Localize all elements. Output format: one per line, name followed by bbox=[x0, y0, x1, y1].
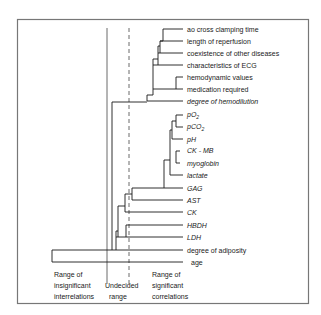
range-undecided-line2: range bbox=[109, 293, 127, 301]
leaf-label: length of reperfusion bbox=[187, 38, 251, 46]
leaf-label: lactate bbox=[187, 172, 208, 179]
range-insignificant-line1: Range of bbox=[54, 271, 82, 279]
range-undecided-line1: Undecided bbox=[105, 282, 139, 289]
leaf-label: degree of adiposity bbox=[187, 247, 247, 255]
range-insignificant-line2: insignificant bbox=[54, 282, 91, 290]
leaf-label: coexistence of other diseases bbox=[187, 50, 280, 57]
range-significant-line3: correlations bbox=[152, 293, 189, 300]
leaf-label: ao cross clamping time bbox=[187, 26, 259, 34]
leaf-label: CK bbox=[187, 209, 197, 216]
lab-cluster-branches bbox=[52, 115, 183, 262]
leaf-label: HBDH bbox=[187, 222, 208, 229]
range-significant-line1: Range of bbox=[152, 271, 180, 279]
leaf-labels: ao cross clamping time length of reperfu… bbox=[186, 26, 280, 267]
range-significant-line2: significant bbox=[152, 282, 183, 290]
leaf-label: degree of hemodilution bbox=[187, 98, 258, 106]
leaf-label: age bbox=[191, 259, 203, 267]
range-labels: Range of insignificant interrelations Un… bbox=[54, 271, 189, 301]
leaf-label: characteristics of ECG bbox=[187, 62, 257, 69]
leaf-label: medication required bbox=[187, 86, 249, 94]
leaf-label: hemodynamic values bbox=[187, 74, 253, 82]
dendrogram-figure: ao cross clamping time length of reperfu… bbox=[0, 0, 321, 315]
range-insignificant-line3: interrelations bbox=[54, 293, 95, 300]
dendrogram-svg: ao cross clamping time length of reperfu… bbox=[0, 0, 321, 315]
leaf-label-pco2: pCO2 bbox=[186, 123, 204, 132]
leaf-label: CK - MB bbox=[187, 147, 214, 154]
upper-cluster-branches bbox=[112, 29, 183, 250]
leaf-label: GAG bbox=[187, 185, 203, 192]
leaf-label: pH bbox=[186, 136, 197, 144]
leaf-label-po2: pO2 bbox=[186, 111, 199, 120]
leaf-label: AST bbox=[186, 197, 201, 204]
figure-frame bbox=[18, 20, 309, 304]
leaf-label: LDH bbox=[187, 234, 202, 241]
leaf-label: myoglobin bbox=[187, 160, 219, 168]
